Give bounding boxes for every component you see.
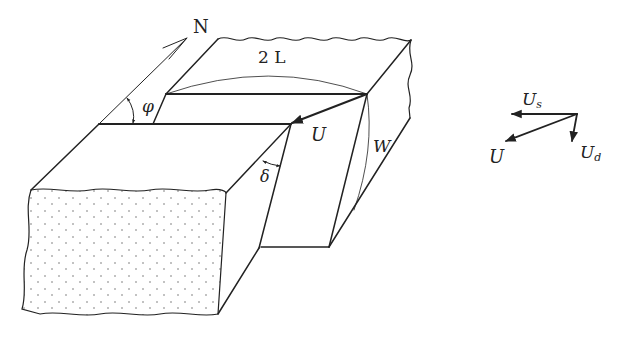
front-block bbox=[22, 124, 291, 315]
slip-arrow bbox=[292, 94, 367, 123]
slip-vector-decomposition: Us U Ud bbox=[489, 89, 601, 167]
total-slip-arrow bbox=[506, 114, 577, 141]
dip-slip-arrow bbox=[572, 114, 577, 141]
width-label: W bbox=[373, 136, 392, 156]
slip-label: U bbox=[311, 124, 327, 145]
dip-slip-label: Ud bbox=[580, 142, 601, 164]
phi-label: φ bbox=[142, 96, 154, 116]
fault-diagram: N φ bbox=[0, 0, 619, 340]
north-label: N bbox=[193, 16, 209, 37]
dip-angle-arc bbox=[263, 161, 280, 166]
length-label: 2 L bbox=[258, 47, 286, 67]
delta-label: δ bbox=[260, 167, 270, 186]
total-slip-label: U bbox=[489, 146, 505, 167]
strike-slip-label: Us bbox=[522, 89, 542, 111]
strike-angle-arc bbox=[127, 98, 134, 123]
